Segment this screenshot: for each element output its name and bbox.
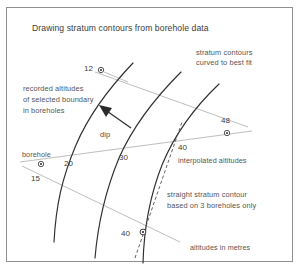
annotation-stratum-contours-line2: curved to best fit: [196, 58, 252, 68]
stratum-contour-30: [95, 72, 181, 258]
leader-line-recorded-altitudes: [104, 72, 128, 82]
contour-value-20: 20: [64, 159, 73, 169]
annotation-recorded-altitudes-line2: of selected boundary: [23, 95, 94, 105]
borehole-label: borehole: [22, 150, 51, 160]
survey-line-15-40: [22, 166, 180, 242]
annotation-straight-contour-line1: straight stratum contour: [167, 190, 247, 200]
figure-container: Drawing stratum contours from borehole d…: [0, 0, 301, 277]
borehole-altitude-40: 40: [121, 229, 130, 239]
borehole-marker-12[interactable]: [98, 67, 103, 72]
dip-label: dip: [100, 130, 110, 140]
stratum-contour-40: [143, 84, 219, 263]
annotation-recorded-altitudes-line1: recorded altitudes: [23, 84, 84, 94]
dip-arrow: [99, 105, 131, 128]
borehole-altitude-12: 12: [84, 64, 93, 74]
annotation-stratum-contours-line1: stratum contours: [196, 48, 253, 58]
page-title: Drawing stratum contours from borehole d…: [32, 23, 209, 33]
annotation-straight-contour-line2: based on 3 boreholes only: [167, 201, 256, 211]
annotation-interpolated-altitudes: interpolated altitudes: [178, 156, 247, 166]
borehole-marker-15[interactable]: [38, 161, 43, 166]
borehole-marker-48[interactable]: [224, 130, 229, 135]
annotation-altitudes-in-metres: altitudes in metres: [190, 243, 250, 253]
dip-arrow-head: [99, 105, 112, 117]
annotation-recorded-altitudes-line3: in boreholes: [23, 106, 64, 116]
contour-value-30: 30: [119, 153, 128, 163]
borehole-altitude-48: 48: [221, 116, 230, 126]
diagram-canvas: [0, 0, 301, 277]
borehole-altitude-15: 15: [31, 174, 40, 184]
borehole-marker-40[interactable]: [140, 229, 146, 235]
contour-value-40: 40: [178, 143, 187, 153]
